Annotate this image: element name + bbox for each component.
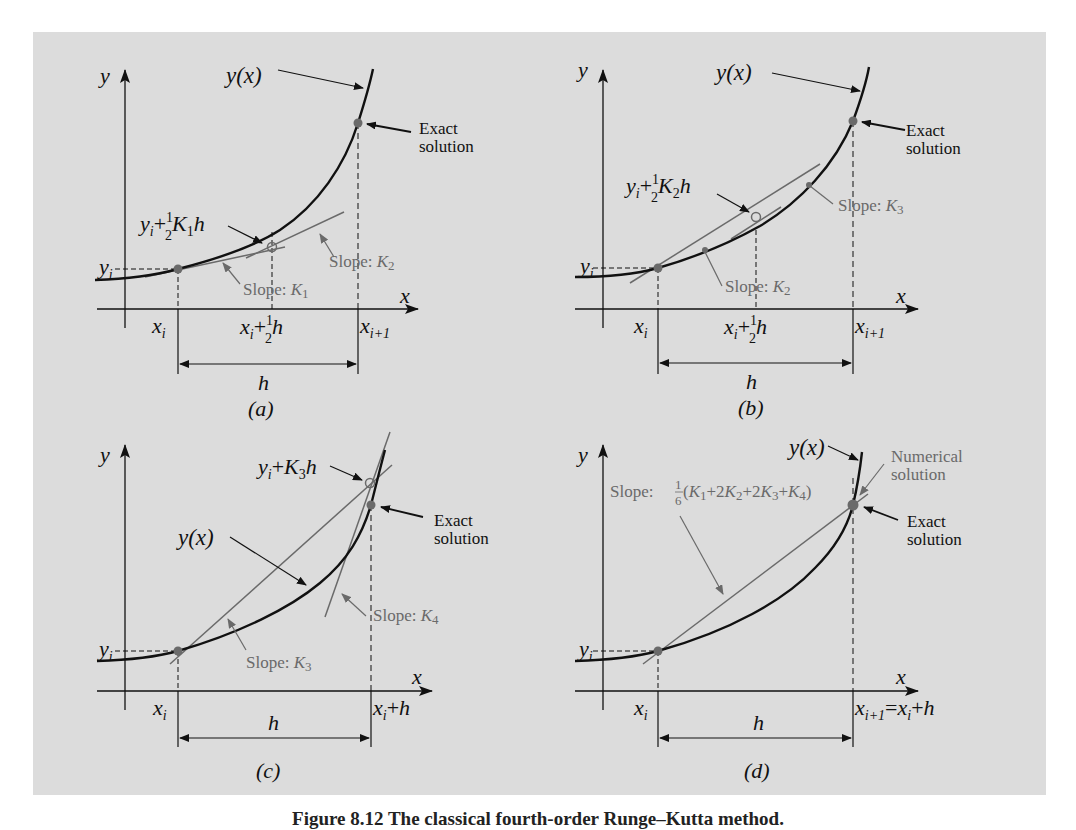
panel-label: (b): [738, 395, 764, 420]
end-x-label: xi+1=xi+h: [854, 695, 935, 723]
midpoint-value-label: yi+12K1h: [138, 210, 205, 243]
exact-solution-label: Exactsolution: [434, 511, 489, 548]
slope-k4-label: Slope: K4: [373, 606, 439, 627]
yi-label: yi: [97, 254, 113, 282]
h-label: h: [753, 710, 764, 735]
start-point: [174, 265, 183, 274]
y-axis-label: y: [576, 442, 588, 467]
panel-label: (d): [744, 758, 770, 783]
k3-estimate-point: [366, 479, 375, 488]
start-point: [654, 264, 663, 273]
midpoint-value-label: yi+12K2h: [624, 172, 691, 205]
curve-label: y(x): [224, 63, 262, 88]
xi-label: xi: [633, 313, 648, 341]
slope-k1-label: Slope: K1: [243, 280, 309, 301]
xi-label: xi: [633, 695, 648, 723]
slope-k2-label: Slope: K2: [329, 252, 395, 273]
panel-b: y x y(x) Exactsolution yi+12K2h yi Slope…: [575, 57, 961, 420]
exact-point: [849, 117, 858, 126]
x-axis-label: x: [895, 283, 906, 308]
slope-k3-label: Slope: K3: [838, 196, 904, 217]
exact-curve: [97, 450, 385, 661]
panel-label: (c): [256, 758, 280, 783]
curve-label: y(x): [787, 435, 825, 460]
numerical-solution-label: Numericalsolution: [891, 447, 963, 484]
xi-label: xi: [151, 313, 166, 341]
slope-k3-label: Slope: K3: [246, 653, 312, 674]
y-axis-label: y: [98, 63, 110, 88]
panel-c: y x yi+K3h Exactsolution y(x) Slope: K4 …: [97, 432, 489, 783]
y-axis-label: y: [98, 442, 110, 467]
panel-d: y x y(x) Numericalsolution Exactsolution…: [575, 435, 963, 783]
rk4-slope-line: [643, 494, 868, 664]
panel-label: (a): [248, 396, 274, 421]
x-axis-label: x: [399, 283, 410, 308]
exact-curve: [95, 69, 373, 280]
h-label: h: [268, 710, 279, 735]
k3-estimate-label: yi+K3h: [256, 454, 317, 482]
exact-solution-label: Exactsolution: [419, 119, 474, 156]
start-point: [174, 647, 183, 656]
panel-a: y x y(x) Exactsolution yi+12K1h yi Slope…: [95, 63, 474, 421]
slope-k4-line: [325, 432, 390, 617]
slope-k3-line: [170, 465, 392, 664]
y-axis-label: y: [576, 57, 588, 82]
yi-label: yi: [577, 636, 593, 664]
curve-label: y(x): [176, 525, 214, 550]
mid-x-label: xi+12h: [723, 313, 767, 346]
xi1-label: xi+1: [359, 313, 390, 341]
figure-caption: Figure 8.12 The classical fourth-order R…: [0, 808, 1076, 830]
start-point: [654, 647, 663, 656]
x-axis-label: x: [895, 664, 906, 689]
xi1-label: xi+1: [854, 313, 885, 341]
midpoint-estimate: [752, 213, 761, 222]
h-label: h: [746, 369, 757, 394]
exact-and-numerical-point: [848, 500, 859, 511]
mid-x-label: xi+12h: [239, 313, 283, 346]
exact-solution-label: Exactsolution: [906, 121, 961, 158]
weighted-slope-label: Slope:16(K1+2K2+2K3+K4): [610, 477, 812, 508]
h-label: h: [258, 370, 269, 395]
xi-label: xi: [152, 695, 167, 723]
yi-label: yi: [97, 636, 113, 664]
exact-point: [354, 119, 363, 128]
curve-label: y(x): [714, 60, 752, 85]
end-x-label: xi+h: [372, 695, 410, 723]
slope-k2-label: Slope: K2: [725, 277, 791, 298]
exact-point: [367, 501, 376, 510]
x-axis-label: x: [411, 664, 422, 689]
exact-curve: [575, 67, 869, 277]
yi-label: yi: [578, 253, 594, 281]
exact-solution-label: Exactsolution: [907, 512, 962, 549]
